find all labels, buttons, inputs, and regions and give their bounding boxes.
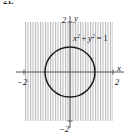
tick-label-y-top: 2 <box>62 15 67 25</box>
x-axis-label: x <box>116 63 121 73</box>
tick-label-x-left-group: −2 <box>17 77 28 87</box>
tick-label-x-right-group: 2 <box>115 77 120 87</box>
tick-label-y-top-group: 2 <box>62 15 67 25</box>
tick-label-x-left: −2 <box>17 77 28 87</box>
tick-label-x-right: 2 <box>115 77 120 87</box>
tick-label-y-bottom-group: −2 <box>59 124 70 134</box>
equation-plus: + <box>82 33 87 43</box>
tick-label-y-bottom: −2 <box>59 124 70 134</box>
equation-y-exponent: 2 <box>92 33 95 39</box>
equation-x-exponent: 2 <box>77 33 80 39</box>
equation-rhs: 1 <box>103 33 108 43</box>
figure-container: 21. −2 <box>0 0 139 139</box>
equation-equals: = <box>97 33 102 43</box>
plot-canvas: −2 2 2 −2 y x x2+y2=1 <box>0 0 139 139</box>
y-axis-label: y <box>73 13 78 23</box>
